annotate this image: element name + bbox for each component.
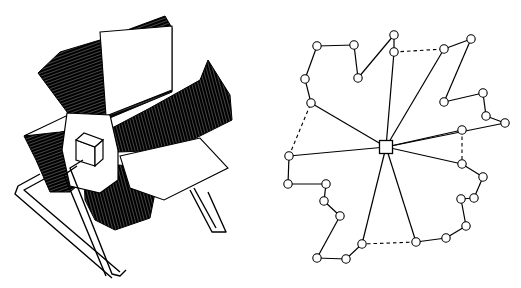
node-n9 (479, 89, 487, 97)
spoke-n12 (386, 130, 462, 147)
node-n3 (354, 74, 362, 82)
node-n29 (301, 75, 309, 83)
graph-nodes (284, 31, 509, 263)
edge-n22-n23 (317, 216, 340, 258)
spoke-n5 (386, 52, 394, 147)
hub-spokes (289, 49, 505, 244)
spoke-n19 (386, 147, 416, 242)
stand-rod-5 (194, 188, 216, 228)
edge-n2-n3 (354, 45, 358, 78)
spoke-n6 (386, 49, 444, 147)
edge-n1-n2 (317, 45, 354, 46)
node-n19 (412, 238, 420, 246)
stand-rod-4 (190, 190, 226, 232)
spoke-n28 (311, 103, 386, 147)
node-n2 (350, 41, 358, 49)
node-n28 (307, 99, 315, 107)
node-n25 (322, 180, 330, 188)
node-n13 (458, 160, 466, 168)
edge-n29-n1 (305, 46, 317, 79)
node-n27 (285, 152, 293, 160)
spoke-n27 (289, 147, 386, 156)
node-n8 (440, 98, 448, 106)
card-file-illustration (0, 0, 265, 288)
node-n14 (479, 173, 487, 181)
node-n21 (342, 255, 350, 263)
dashed-edge-n27-n28 (289, 103, 311, 156)
central-hub-node (380, 141, 393, 154)
network-graph (265, 0, 521, 288)
node-n12 (458, 126, 466, 134)
node-n1 (313, 42, 321, 50)
node-n4 (390, 31, 398, 39)
network-graph-panel (265, 0, 521, 288)
node-n15 (470, 194, 478, 202)
dashed-edge-n5-n6 (394, 49, 444, 52)
graph-edges (288, 35, 505, 259)
node-n26 (284, 180, 292, 188)
node-n6 (440, 45, 448, 53)
rotary-card-file-drawing (0, 0, 265, 288)
node-n7 (467, 35, 475, 43)
node-n5 (390, 48, 398, 56)
node-n24 (320, 197, 328, 205)
node-n17 (462, 222, 470, 230)
edge-n3-n4 (358, 35, 394, 78)
node-n11 (501, 119, 509, 127)
node-n16 (457, 195, 465, 203)
node-n20 (358, 240, 366, 248)
node-n18 (442, 234, 450, 242)
node-n10 (482, 112, 490, 120)
spoke-n20 (362, 147, 386, 244)
node-n22 (313, 254, 321, 262)
node-n23 (336, 212, 344, 220)
edge-n8-n9 (444, 93, 483, 102)
spoke-n13 (386, 147, 462, 164)
dashed-edge-n19-n20 (362, 242, 416, 244)
